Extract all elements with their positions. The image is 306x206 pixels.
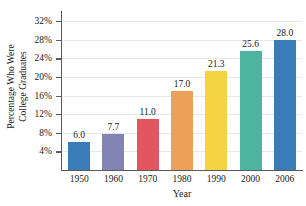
y-axis-tick-label: 20% — [24, 72, 52, 82]
bar — [274, 40, 296, 170]
x-axis-tick-label: 2006 — [265, 174, 305, 184]
bar — [240, 51, 262, 170]
bar-value-label: 17.0 — [162, 79, 202, 89]
x-axis-line — [61, 170, 303, 171]
bar-value-label: 28.0 — [265, 28, 305, 38]
y-axis-tick-label: 16% — [24, 91, 52, 101]
y-axis-title-line1: Percentage Who Were — [6, 44, 16, 128]
x-axis-title: Year — [62, 188, 302, 199]
bar-value-label: 11.0 — [128, 107, 168, 117]
plot-area: 6.07.711.017.021.325.628.0 — [62, 12, 302, 170]
gridline — [62, 58, 302, 59]
gridline — [62, 77, 302, 78]
bar — [205, 71, 227, 170]
bar — [102, 134, 124, 170]
y-axis-tick-label: 12% — [24, 109, 52, 119]
y-axis-tick-label: 24% — [24, 53, 52, 63]
bar — [68, 142, 90, 170]
bar-value-label: 25.6 — [231, 39, 271, 49]
gridline — [62, 21, 302, 22]
bar-value-label: 7.7 — [93, 122, 133, 132]
bar — [171, 91, 193, 170]
y-axis-tick-label: 8% — [24, 128, 52, 138]
bar-chart: Percentage Who Were College Graduates 4%… — [0, 0, 306, 206]
y-axis-tick-label: 4% — [24, 146, 52, 156]
bar-value-label: 21.3 — [196, 59, 236, 69]
y-axis-tick-label: 28% — [24, 35, 52, 45]
y-axis-tick-label: 32% — [24, 16, 52, 26]
bar — [137, 119, 159, 170]
